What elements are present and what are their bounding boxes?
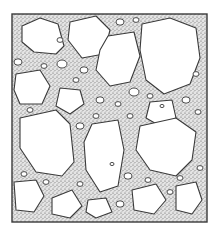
small-pebble xyxy=(177,176,183,181)
small-pebble xyxy=(193,72,199,77)
small-pebble xyxy=(110,162,114,165)
small-pebble xyxy=(197,166,203,171)
small-pebble xyxy=(182,97,190,103)
small-pebble xyxy=(124,173,132,179)
small-pebble xyxy=(80,67,88,73)
small-pebble xyxy=(116,19,124,25)
small-pebble xyxy=(147,94,153,99)
small-pebble xyxy=(127,114,133,119)
small-pebble xyxy=(93,114,99,119)
small-pebble xyxy=(96,97,104,103)
small-pebble xyxy=(73,78,79,83)
large-stone xyxy=(140,18,200,94)
small-pebble xyxy=(115,102,121,107)
small-pebble xyxy=(116,201,124,207)
small-pebble xyxy=(57,60,67,68)
small-pebble xyxy=(195,110,201,115)
small-pebble xyxy=(41,64,47,69)
small-pebble xyxy=(77,182,83,187)
small-pebble xyxy=(43,180,49,185)
small-pebble xyxy=(133,18,139,23)
small-pebble xyxy=(145,178,151,183)
small-pebble xyxy=(27,108,33,113)
small-pebble xyxy=(76,123,84,129)
concrete-illustration xyxy=(0,0,217,234)
small-pebble xyxy=(129,88,139,96)
small-pebble xyxy=(21,172,27,177)
concrete-cross-section-drawing xyxy=(0,0,217,234)
small-pebble xyxy=(14,59,22,65)
small-pebble xyxy=(57,38,63,43)
small-pebble xyxy=(167,190,173,195)
small-pebble xyxy=(160,104,164,107)
